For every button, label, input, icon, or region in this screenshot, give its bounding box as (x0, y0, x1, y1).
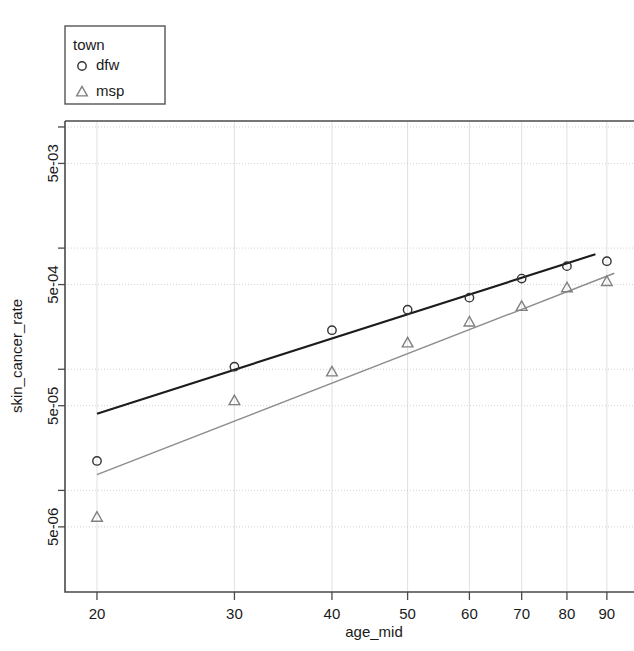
y-axis-tick-label: 5e-05 (44, 387, 61, 425)
y-axis-tick-label: 5e-03 (44, 144, 61, 182)
x-axis-tick-label: 40 (324, 605, 341, 622)
legend-label-dfw: dfw (96, 56, 120, 73)
x-axis-tick-label: 70 (513, 605, 530, 622)
x-axis-title: age_mid (345, 623, 403, 640)
skin-cancer-rate-scatter-plot: 5e-065e-055e-045e-03 2030405060708090 sk… (0, 0, 634, 651)
y-axis-tick-label: 5e-04 (44, 265, 61, 303)
chart-legend: town dfwmsp (65, 26, 165, 104)
x-axis-tick-label: 20 (89, 605, 106, 622)
legend-label-msp: msp (96, 82, 124, 99)
y-axis-title: skin_cancer_rate (8, 299, 25, 413)
legend-title: town (73, 36, 105, 53)
x-axis-tick-label: 80 (559, 605, 576, 622)
x-axis-tick-label: 90 (599, 605, 616, 622)
y-axis-tick-label: 5e-06 (44, 508, 61, 546)
x-axis-tick-label: 50 (399, 605, 416, 622)
x-axis-tick-label: 30 (226, 605, 243, 622)
chart-container: 5e-065e-055e-045e-03 2030405060708090 sk… (0, 0, 634, 651)
x-axis-tick-label: 60 (461, 605, 478, 622)
